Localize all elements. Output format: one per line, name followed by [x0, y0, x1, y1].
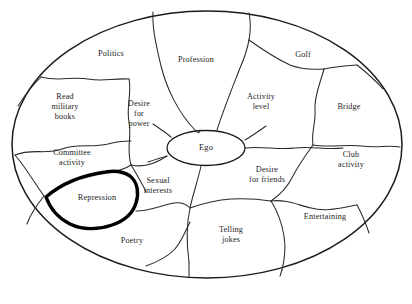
- region-label-sexual-interests: Sexual interests: [144, 176, 173, 196]
- ego-label: Ego: [199, 143, 213, 153]
- region-label-telling-jokes: Telling jokes: [219, 225, 243, 245]
- region-label-activity-level: Activity level: [247, 92, 275, 112]
- region-label-club-activity: Club activity: [338, 150, 364, 170]
- region-label-bridge: Bridge: [337, 102, 360, 112]
- ego-diagram: Politics Profession Golf Read military b…: [0, 0, 412, 304]
- region-label-desire-for-friends: Desire for friends: [249, 165, 285, 185]
- region-label-committee-activity: Committee activity: [53, 148, 91, 168]
- region-label-politics: Politics: [98, 49, 124, 59]
- region-label-read-military-books: Read military books: [51, 92, 78, 122]
- divider-entertaining-bottom: [280, 270, 282, 276]
- region-label-desire-for-power: Desire for power: [128, 99, 150, 129]
- region-label-poetry: Poetry: [121, 236, 143, 246]
- region-label-entertaining: Entertaining: [304, 212, 346, 222]
- region-label-profession: Profession: [178, 55, 214, 65]
- region-label-golf: Golf: [295, 50, 311, 60]
- region-label-repression: Repression: [78, 193, 116, 203]
